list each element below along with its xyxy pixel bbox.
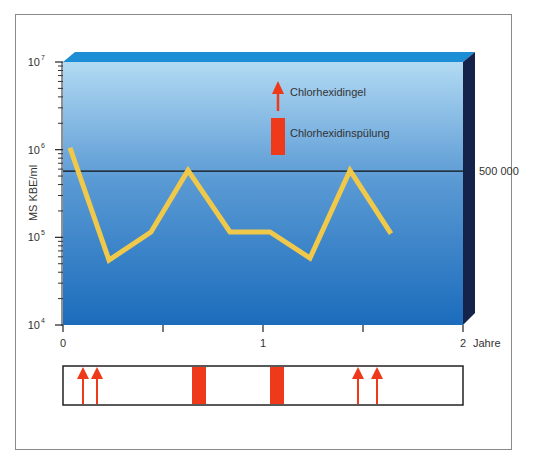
plot-area bbox=[63, 62, 463, 325]
rinse-period-bar bbox=[192, 367, 206, 404]
legend-label: Chlorhexidinspülung bbox=[290, 127, 390, 139]
reference-line-label: 500 000 bbox=[479, 165, 519, 177]
x-axis-label: Jahre bbox=[473, 337, 501, 349]
y-tick-label: 10 bbox=[28, 319, 40, 331]
legend-label: Chlorhexidingel bbox=[290, 86, 366, 98]
y-tick-label: 10 bbox=[28, 144, 40, 156]
x-tick-label: 0 bbox=[60, 337, 66, 349]
y-tick-label: 10 bbox=[28, 231, 40, 243]
treatment-timeline bbox=[63, 366, 463, 405]
plot-side-face bbox=[463, 52, 475, 325]
plot-top-face bbox=[63, 52, 475, 62]
y-tick-exponent: 5 bbox=[41, 229, 45, 236]
rinse-period-bar bbox=[270, 367, 284, 404]
chart: 104105106107 012Jahre 500 000 Chlorhexid… bbox=[0, 0, 537, 466]
y-axis-label: MS KBE/ml bbox=[27, 165, 39, 221]
x-tick-label: 2 bbox=[460, 337, 466, 349]
bar-icon bbox=[271, 118, 285, 155]
y-tick-exponent: 7 bbox=[41, 54, 45, 61]
y-tick-exponent: 4 bbox=[41, 317, 45, 324]
x-tick-label: 1 bbox=[260, 337, 266, 349]
y-tick-label: 10 bbox=[28, 56, 40, 68]
y-tick-exponent: 6 bbox=[41, 142, 45, 149]
x-axis: 012Jahre bbox=[60, 325, 501, 349]
timeline-box bbox=[63, 366, 463, 405]
